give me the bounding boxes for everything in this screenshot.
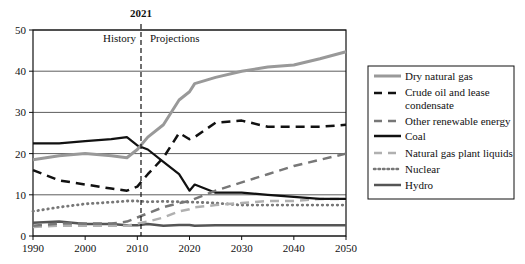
x-tick-label: 2000 — [74, 242, 97, 254]
svg-text:Nuclear: Nuclear — [405, 163, 440, 175]
y-tick-label: 20 — [15, 148, 27, 160]
series-dry-natural-gas — [33, 52, 346, 160]
projections-label: Projections — [150, 32, 200, 44]
series-lines — [33, 52, 346, 227]
x-tick-label: 2010 — [126, 242, 149, 254]
x-tick-label: 2040 — [283, 242, 306, 254]
svg-text:Dry natural gas: Dry natural gas — [405, 70, 473, 82]
y-tick-label: 40 — [15, 65, 27, 77]
x-axis-ticks: 1990200020102020203020402050 — [22, 236, 358, 254]
legend: Dry natural gas Crude oil and lease cond… — [368, 66, 514, 199]
series-crude-oil-and-lease-condensate — [33, 121, 346, 191]
svg-text:Other renewable energy: Other renewable energy — [405, 115, 511, 127]
svg-text:Coal: Coal — [405, 130, 426, 142]
y-tick-label: 0 — [21, 230, 27, 242]
x-tick-label: 1990 — [22, 242, 45, 254]
x-tick-label: 2020 — [179, 242, 202, 254]
x-tick-label: 2050 — [335, 242, 358, 254]
svg-text:Natural gas plant liquids: Natural gas plant liquids — [405, 147, 513, 159]
x-tick-label: 2030 — [231, 242, 254, 254]
energy-production-chart: 01020304050 1990200020102020203020402050… — [0, 0, 525, 264]
series-coal — [33, 137, 346, 199]
svg-text:condensate: condensate — [405, 99, 454, 111]
y-axis-ticks: 01020304050 — [15, 24, 33, 242]
svg-text:Hydro: Hydro — [405, 179, 434, 191]
divider-year-label: 2021 — [130, 7, 152, 19]
history-label: History — [103, 32, 137, 44]
y-tick-label: 30 — [15, 106, 27, 118]
y-tick-label: 10 — [15, 189, 27, 201]
y-tick-label: 50 — [15, 24, 27, 36]
svg-text:Crude oil and lease: Crude oil and lease — [405, 86, 490, 98]
